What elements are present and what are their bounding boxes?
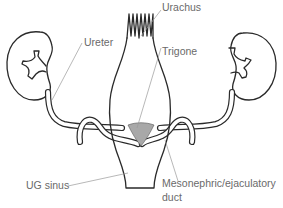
leader-trigone	[137, 48, 161, 128]
leader-ug-sinus	[68, 173, 128, 186]
label-mesonephric-line1: Mesonephric/ejaculatory	[162, 177, 277, 189]
label-trigone: Trigone	[162, 45, 197, 57]
urogenital-diagram: Urachus Ureter Trigone UG sinus Mesoneph…	[0, 0, 283, 208]
leader-ureter	[52, 43, 82, 100]
label-urachus: Urachus	[162, 1, 201, 13]
left-mesonephric-duct	[80, 120, 138, 144]
label-ureter: Ureter	[84, 36, 114, 48]
bladder-ug-sinus	[109, 38, 170, 188]
left-kidney	[7, 32, 52, 100]
right-kidney	[229, 33, 276, 100]
leader-mesonephric	[165, 140, 178, 181]
label-ug-sinus: UG sinus	[26, 179, 69, 191]
label-mesonephric-line2: duct	[162, 191, 182, 203]
